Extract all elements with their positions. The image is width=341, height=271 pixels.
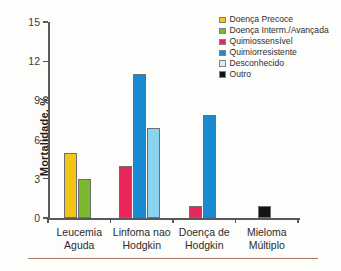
legend-swatch-icon xyxy=(219,50,226,57)
x-category-label-line: Múltiplo xyxy=(236,239,299,252)
bar xyxy=(78,179,91,218)
legend-item[interactable]: Desconhecido xyxy=(219,59,329,69)
legend-swatch-icon xyxy=(219,28,226,35)
y-tick-label: 9 xyxy=(0,94,40,106)
x-category-label-line: Leucemia xyxy=(48,226,111,239)
x-tick-mark xyxy=(297,218,298,223)
legend-label: Doença Precoce xyxy=(230,15,294,25)
legend-swatch-icon xyxy=(219,60,226,67)
bar xyxy=(133,74,146,218)
bar-group xyxy=(119,22,160,218)
bar xyxy=(258,206,271,218)
y-tick-mark xyxy=(43,178,48,179)
y-tick-label: 15 xyxy=(0,16,40,28)
x-tick-mark xyxy=(47,218,48,223)
x-category-label: Linfoma naoHodgkin xyxy=(111,226,174,251)
y-tick-label: 3 xyxy=(0,173,40,185)
legend-item[interactable]: Outro xyxy=(219,70,329,80)
x-category-label-line: Hodgkin xyxy=(173,239,236,252)
x-axis-line xyxy=(48,218,300,220)
footer-divider xyxy=(28,258,318,259)
legend-label: Quimiorresistente xyxy=(230,48,297,58)
x-tick-mark xyxy=(235,218,236,223)
legend-item[interactable]: Doença Interm./Avançada xyxy=(219,26,329,36)
x-category-label-line: Aguda xyxy=(48,239,111,252)
bar xyxy=(189,206,202,218)
chart-legend: Doença PrecoceDoença Interm./AvançadaQui… xyxy=(219,15,329,80)
x-category-label-line: Doença de xyxy=(173,226,236,239)
legend-item[interactable]: Doença Precoce xyxy=(219,15,329,25)
legend-item[interactable]: Quimiossensível xyxy=(219,37,329,47)
y-tick-mark xyxy=(43,139,48,140)
y-tick-mark xyxy=(43,61,48,62)
bar xyxy=(119,166,132,218)
legend-label: Doença Interm./Avançada xyxy=(230,26,329,36)
chart-figure: Mortalidade, % 03691215 LeucemiaAgudaLin… xyxy=(0,0,341,271)
y-tick-mark xyxy=(43,100,48,101)
bar xyxy=(203,115,216,218)
x-category-label-line: Linfoma nao xyxy=(111,226,174,239)
y-tick-label: 0 xyxy=(0,212,40,224)
y-tick-label: 12 xyxy=(0,55,40,67)
legend-swatch-icon xyxy=(219,17,226,24)
bar xyxy=(64,153,77,218)
y-tick-label: 6 xyxy=(0,134,40,146)
bar xyxy=(147,128,160,218)
x-category-label: MielomaMúltiplo xyxy=(236,226,299,251)
x-tick-mark xyxy=(172,218,173,223)
legend-swatch-icon xyxy=(219,71,226,78)
legend-label: Outro xyxy=(230,70,252,80)
legend-swatch-icon xyxy=(219,39,226,46)
legend-label: Quimiossensível xyxy=(230,37,293,47)
bar-group xyxy=(189,22,216,218)
bar-group xyxy=(64,22,91,218)
x-category-label-line: Mieloma xyxy=(236,226,299,239)
x-tick-mark xyxy=(110,218,111,223)
x-category-label: Doença deHodgkin xyxy=(173,226,236,251)
legend-item[interactable]: Quimiorresistente xyxy=(219,48,329,58)
x-category-label-line: Hodgkin xyxy=(111,239,174,252)
y-tick-mark xyxy=(43,21,48,22)
legend-label: Desconhecido xyxy=(230,59,284,69)
x-category-label: LeucemiaAguda xyxy=(48,226,111,251)
